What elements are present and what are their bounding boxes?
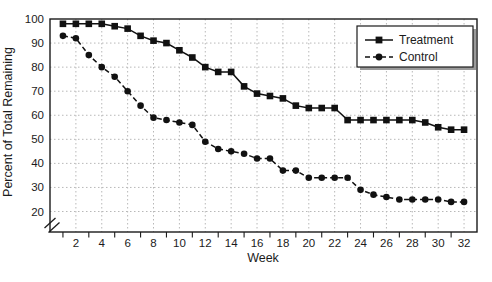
treatment-square-marker (448, 126, 455, 133)
control-circle-marker (189, 122, 196, 129)
x-tick-label: 6 (124, 237, 130, 249)
legend-treatment-label: Treatment (399, 33, 454, 47)
control-circle-marker (254, 155, 261, 162)
treatment-square-marker (86, 21, 93, 28)
y-tick-label: 80 (31, 61, 44, 73)
control-circle-marker (461, 199, 468, 206)
control-circle-marker (150, 114, 157, 121)
control-circle-marker (228, 148, 235, 155)
treatment-square-marker (254, 90, 261, 97)
treatment-square-marker (60, 21, 67, 28)
treatment-square-marker (137, 33, 144, 40)
treatment-square-marker (409, 117, 416, 124)
y-tick-label: 50 (31, 133, 44, 145)
control-circle-marker (267, 155, 274, 162)
x-tick-label: 12 (199, 237, 212, 249)
control-circle-marker (357, 187, 364, 194)
treatment-square-marker (396, 117, 403, 124)
y-axis-title: Percent of Total Remaining (1, 47, 15, 197)
control-circle-marker (280, 167, 287, 174)
legend: Treatment Control (357, 26, 476, 70)
x-axis-title: Week (247, 251, 279, 265)
y-tick-label: 20 (31, 206, 44, 218)
x-tick-labels: 2468101214161820222426283032 (73, 237, 471, 249)
survival-plot: 2030405060708090100246810121416182022242… (0, 0, 492, 282)
treatment-square-marker (202, 64, 209, 71)
x-tick-label: 28 (406, 237, 419, 249)
x-tick-label: 20 (302, 237, 315, 249)
control-circle-marker (60, 33, 67, 40)
x-tick-label: 18 (277, 237, 290, 249)
control-circle-marker (409, 196, 416, 203)
control-circle-marker (137, 102, 144, 109)
control-circle-marker (396, 196, 403, 203)
x-tick-label: 8 (150, 237, 156, 249)
treatment-square-marker (331, 105, 338, 112)
treatment-square-marker (370, 117, 377, 124)
treatment-square-marker (150, 37, 157, 44)
x-tick-label: 14 (225, 237, 238, 249)
x-tick-label: 4 (99, 237, 106, 249)
x-tick-label: 26 (380, 237, 393, 249)
x-tick-label: 2 (73, 237, 79, 249)
control-circle-marker (98, 64, 105, 71)
control-circle-marker (435, 196, 442, 203)
control-circle-marker (124, 88, 131, 95)
treatment-square-marker (98, 21, 105, 28)
control-circle-marker (305, 175, 312, 182)
control-circle-marker (215, 146, 222, 153)
control-circle-marker (111, 73, 118, 80)
treatment-square-marker (383, 117, 390, 124)
x-tick-label: 32 (458, 237, 471, 249)
treatment-square-marker (305, 105, 312, 112)
treatment-square-marker (435, 124, 442, 131)
treatment-square-marker (318, 105, 325, 112)
x-tick-label: 10 (173, 237, 186, 249)
treatment-square-marker (241, 83, 248, 90)
legend-control-circle-marker-icon (376, 54, 383, 61)
x-tick-label: 22 (328, 237, 341, 249)
treatment-square-marker (73, 21, 80, 28)
treatment-square-marker (461, 126, 468, 133)
treatment-square-marker (176, 47, 183, 54)
treatment-square-marker (124, 25, 131, 32)
treatment-square-marker (344, 117, 351, 124)
y-tick-label: 30 (31, 181, 44, 193)
treatment-square-marker (163, 40, 170, 47)
x-tick-label: 30 (432, 237, 445, 249)
x-tick-label: 24 (354, 237, 367, 249)
control-circle-marker (448, 199, 455, 206)
control-circle-marker (73, 35, 80, 42)
y-tick-label: 70 (31, 85, 44, 97)
control-circle-marker (370, 191, 377, 198)
y-axis-break-icon (45, 218, 60, 233)
treatment-square-marker (293, 102, 300, 109)
y-tick-labels: 2030405060708090100 (25, 13, 44, 218)
control-circle-marker (176, 119, 183, 126)
treatment-square-marker (215, 69, 222, 76)
control-circle-marker (331, 175, 338, 182)
control-circle-marker (241, 150, 248, 157)
control-circle-marker (422, 196, 429, 203)
y-tick-label: 60 (31, 109, 44, 121)
y-tick-label: 100 (25, 13, 44, 25)
treatment-square-marker (280, 95, 287, 102)
control-circle-marker (163, 117, 170, 124)
y-tick-label: 40 (31, 157, 44, 169)
control-circle-marker (202, 138, 209, 145)
control-circle-marker (383, 194, 390, 201)
x-tick-label: 16 (251, 237, 264, 249)
legend-control-label: Control (399, 50, 438, 64)
treatment-square-marker (267, 93, 274, 100)
treatment-square-marker (357, 117, 364, 124)
control-circle-marker (293, 167, 300, 174)
y-tick-label: 90 (31, 37, 44, 49)
control-circle-marker (318, 175, 325, 182)
treatment-square-marker (111, 23, 118, 30)
treatment-square-marker (189, 54, 196, 61)
control-circle-marker (86, 52, 93, 59)
treatment-square-marker (228, 69, 235, 76)
control-circle-marker (344, 175, 351, 182)
treatment-square-marker (422, 119, 429, 126)
chart-figure: 2030405060708090100246810121416182022242… (0, 0, 492, 282)
